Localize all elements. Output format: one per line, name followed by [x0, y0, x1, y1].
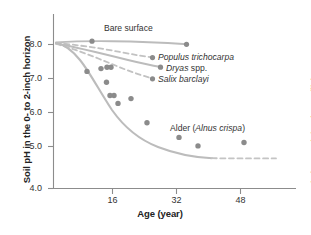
annotation-dryas-genus: Dryas — [166, 63, 188, 73]
y-tick-label-8: 8.0 — [16, 39, 42, 49]
annotation-dryas-rest: spp. — [188, 63, 207, 73]
y-tick-label-4: 4.0 — [16, 183, 42, 193]
adjacent-panel-cropped-region: Total nitrogen (g/m2 in. profile) — [296, 0, 311, 235]
x-axis-ticks — [113, 189, 241, 195]
x-tick-label-16: 16 — [100, 195, 126, 205]
y-tick-label-5: 5.0 — [16, 141, 42, 151]
annotation-alder-prefix: Alder ( — [170, 123, 195, 133]
chart-plot-area — [0, 0, 311, 235]
annotation-dryas-spp: Dryas spp. — [166, 64, 207, 73]
y-tick-label-7: 7.0 — [16, 73, 42, 83]
adjacent-panel-axis-title: Total nitrogen (g/m2 in. profile) — [310, 0, 311, 200]
annotation-populus-trichocarpa: Populus trichocarpa — [158, 53, 234, 62]
y-tick-label-6: 6.0 — [16, 107, 42, 117]
annotation-alder: Alder (Alnus crispa) — [170, 124, 245, 133]
y-axis-ticks — [48, 45, 54, 189]
annotation-salix-barclayi: Salix barclayi — [158, 75, 209, 84]
annotation-alder-suffix: ) — [242, 123, 245, 133]
x-axis-title: Age (year) — [90, 208, 230, 219]
x-tick-label-32: 32 — [164, 195, 190, 205]
annotation-bare-surface: Bare surface — [104, 24, 153, 33]
chart-figure: Soil pH in the 0- to 2-inch horizon Age … — [0, 0, 311, 235]
annotation-alder-species: Alnus crispa — [195, 123, 242, 133]
x-tick-label-48: 48 — [228, 195, 254, 205]
